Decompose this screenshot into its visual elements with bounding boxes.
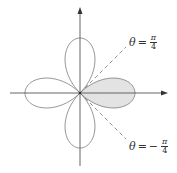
denominator: 4 bbox=[151, 43, 156, 51]
label-theta-neg-pi-over-4: θ = − π 4 bbox=[129, 138, 168, 155]
theta-symbol: θ bbox=[129, 36, 136, 49]
theta-symbol: θ bbox=[129, 140, 136, 153]
equals-sign: = bbox=[138, 140, 147, 153]
fraction: π 4 bbox=[161, 138, 168, 155]
origin-point bbox=[79, 92, 82, 95]
x-axis-arrow-icon bbox=[161, 91, 168, 96]
y-axis-arrow-icon bbox=[78, 7, 83, 14]
minus-sign: − bbox=[149, 140, 158, 153]
denominator: 4 bbox=[162, 147, 167, 155]
fraction: π 4 bbox=[150, 34, 157, 51]
equals-sign: = bbox=[138, 36, 147, 49]
label-theta-pi-over-4: θ = π 4 bbox=[129, 34, 157, 51]
